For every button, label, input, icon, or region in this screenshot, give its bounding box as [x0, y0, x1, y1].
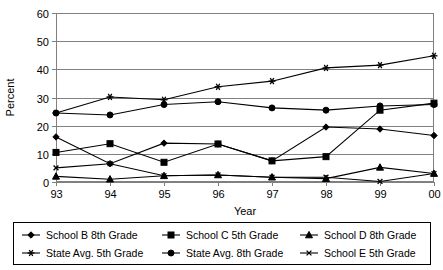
marker-square: [53, 149, 59, 155]
legend-label: State Avg. 5th Grade: [46, 247, 143, 259]
marker-square: [215, 141, 221, 147]
x-tick-label: 98: [320, 188, 332, 200]
marker-square: [168, 232, 174, 238]
legend-label: School B 8th Grade: [46, 229, 138, 241]
marker-asterisk: [269, 78, 276, 84]
x-axis: 9394959697989900: [50, 182, 440, 200]
x-tick-label: 99: [374, 188, 386, 200]
marker-circle: [323, 107, 329, 113]
legend-label: School D 8th Grade: [324, 229, 416, 241]
marker-circle: [269, 105, 275, 111]
y-tick-label: 50: [37, 36, 49, 48]
marker-asterisk: [215, 84, 222, 90]
marker-circle: [168, 250, 174, 256]
marker-diamond: [323, 124, 329, 130]
x-tick-label: 97: [266, 188, 278, 200]
y-tick-label: 60: [37, 8, 49, 20]
marker-square: [323, 154, 329, 160]
marker-circle: [215, 99, 221, 105]
chart-legend: School B 8th GradeSchool C 5th GradeScho…: [14, 223, 431, 265]
marker-square: [107, 141, 113, 147]
marker-square: [269, 158, 275, 164]
marker-circle: [431, 102, 437, 108]
marker-asterisk: [107, 94, 114, 100]
marker-diamond: [53, 134, 59, 140]
marker-circle: [161, 102, 167, 108]
y-tick-label: 40: [37, 64, 49, 76]
marker-circle: [377, 103, 383, 109]
y-tick-label: 30: [37, 93, 49, 105]
marker-square: [161, 159, 167, 165]
y-tick-label: 10: [37, 149, 49, 161]
legend-label: State Avg. 8th Grade: [186, 247, 283, 259]
x-axis-title: Year: [234, 205, 257, 217]
x-tick-label: 00: [428, 188, 440, 200]
marker-circle: [107, 112, 113, 118]
legend-label: School E 5th Grade: [324, 247, 416, 259]
y-gridlines: 0102030405060: [37, 8, 434, 189]
x-tick-label: 95: [158, 188, 170, 200]
y-axis-title: Percent: [4, 79, 16, 117]
series-2: [53, 100, 437, 165]
marker-diamond: [161, 140, 167, 146]
series-5: [53, 99, 437, 118]
line-chart: 01020304050609394959697989900YearPercent…: [0, 0, 443, 270]
marker-circle: [53, 110, 59, 116]
y-tick-label: 0: [43, 177, 49, 189]
marker-triangle: [377, 164, 384, 170]
x-tick-label: 96: [212, 188, 224, 200]
y-tick-label: 20: [37, 121, 49, 133]
x-tick-label: 93: [50, 188, 62, 200]
chart-figure: 01020304050609394959697989900YearPercent…: [0, 0, 443, 270]
marker-asterisk: [323, 65, 330, 71]
x-tick-label: 94: [104, 188, 116, 200]
marker-diamond: [431, 132, 437, 138]
marker-asterisk: [377, 62, 384, 68]
legend-label: School C 5th Grade: [186, 229, 278, 241]
